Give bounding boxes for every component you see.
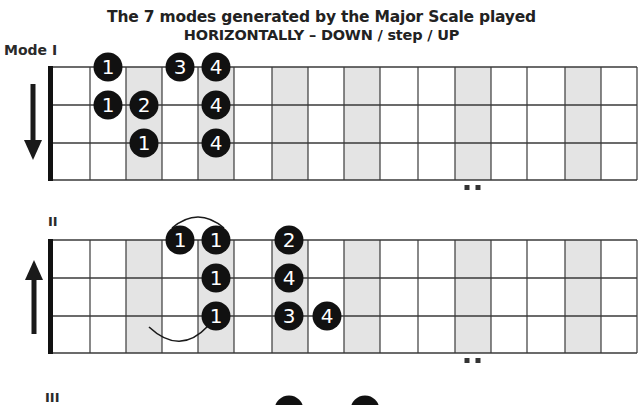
fret-shade bbox=[126, 67, 162, 180]
finger-number: 3 bbox=[174, 55, 187, 79]
position-marker-dot bbox=[465, 358, 470, 363]
fret-shade bbox=[344, 67, 380, 180]
finger-number: 1 bbox=[102, 93, 115, 117]
finger-number: 1 bbox=[210, 304, 223, 328]
finger-number: 4 bbox=[321, 304, 334, 328]
finger-number: 1 bbox=[102, 55, 115, 79]
finger-number: 4 bbox=[283, 266, 296, 290]
fret-shade bbox=[272, 240, 308, 353]
nut bbox=[48, 66, 53, 181]
finger-number: 1 bbox=[210, 266, 223, 290]
finger-number: 4 bbox=[210, 93, 223, 117]
fret-shade bbox=[344, 240, 380, 353]
position-marker-dot bbox=[476, 185, 481, 190]
fret-shade bbox=[272, 67, 308, 180]
fret-shade bbox=[455, 240, 491, 353]
fret-shade bbox=[126, 240, 162, 353]
position-marker-dot bbox=[465, 185, 470, 190]
fret-shade bbox=[198, 240, 234, 353]
fret-shade bbox=[455, 67, 491, 180]
finger-number: 4 bbox=[210, 131, 223, 155]
nut bbox=[48, 239, 53, 354]
position-marker-dot bbox=[476, 358, 481, 363]
finger-number: 2 bbox=[283, 228, 296, 252]
fret-shade bbox=[565, 240, 601, 353]
finger-number: 1 bbox=[210, 228, 223, 252]
finger-number: 3 bbox=[283, 304, 296, 328]
finger-number: 2 bbox=[138, 93, 151, 117]
fret-shade bbox=[198, 67, 234, 180]
finger-number: 4 bbox=[210, 55, 223, 79]
fret-shade bbox=[565, 67, 601, 180]
finger-number: 1 bbox=[174, 228, 187, 252]
finger-number: 1 bbox=[138, 131, 151, 155]
